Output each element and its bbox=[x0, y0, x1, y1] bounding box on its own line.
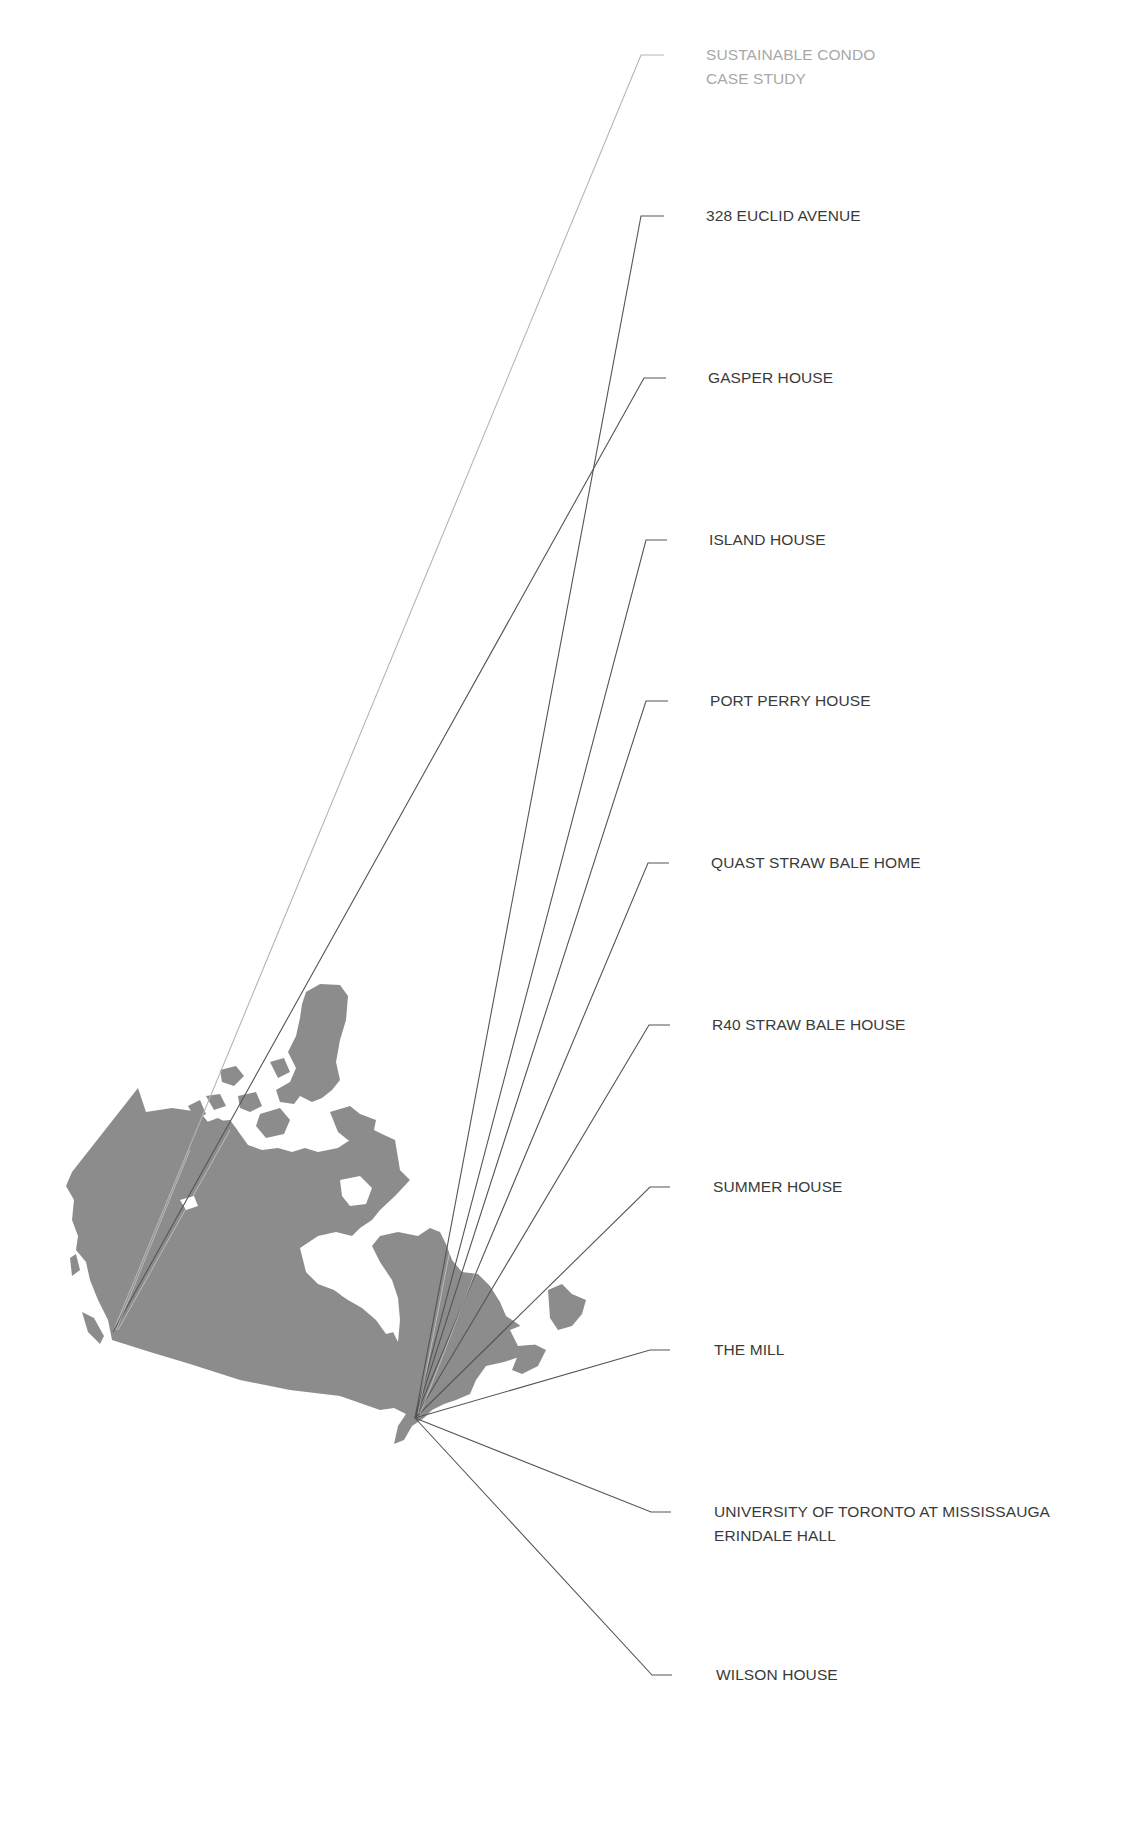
label-island-house: ISLAND HOUSE bbox=[709, 528, 826, 552]
arctic-island-4 bbox=[206, 1094, 226, 1110]
label-the-mill: THE MILL bbox=[714, 1338, 785, 1362]
arctic-island-5 bbox=[270, 1058, 290, 1078]
baffin-island bbox=[276, 984, 348, 1104]
vancouver-island bbox=[82, 1312, 104, 1344]
haida-gwaii bbox=[70, 1254, 80, 1276]
arctic-island-2 bbox=[220, 1066, 244, 1086]
canada-mainland bbox=[66, 1088, 532, 1444]
label-port-perry-house: PORT PERRY HOUSE bbox=[710, 689, 871, 713]
label-euclid-avenue: 328 EUCLID AVENUE bbox=[706, 204, 861, 228]
canada-map bbox=[0, 0, 1128, 1841]
label-utm-erindale: UNIVERSITY OF TORONTO AT MISSISSAUGA ERI… bbox=[714, 1500, 1050, 1548]
label-quast-straw-bale: QUAST STRAW BALE HOME bbox=[711, 851, 921, 875]
leader-lines bbox=[113, 55, 672, 1675]
label-summer-house: SUMMER HOUSE bbox=[713, 1175, 843, 1199]
ellesmere-island bbox=[330, 1106, 376, 1146]
leader-utm-erindale bbox=[415, 1418, 671, 1512]
label-gasper-house: GASPER HOUSE bbox=[708, 366, 833, 390]
canada-landmass bbox=[66, 984, 586, 1444]
label-wilson-house: WILSON HOUSE bbox=[716, 1663, 838, 1687]
project-location-map: SUSTAINABLE CONDO CASE STUDY 328 EUCLID … bbox=[0, 0, 1128, 1841]
leader-wilson-house bbox=[415, 1418, 672, 1675]
label-r40-straw-bale: R40 STRAW BALE HOUSE bbox=[712, 1013, 906, 1037]
newfoundland bbox=[548, 1284, 586, 1330]
arctic-island-1 bbox=[256, 1108, 290, 1138]
label-sustainable-condo: SUSTAINABLE CONDO CASE STUDY bbox=[706, 43, 875, 91]
leader-euclid-avenue bbox=[415, 216, 664, 1418]
